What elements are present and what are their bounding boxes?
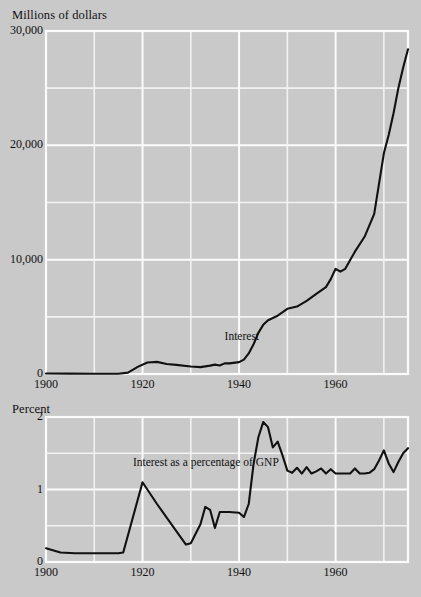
figure-container: Millions of dollars 010,00020,00030,000 … [0,0,421,597]
y-axis-tick-label: 30,000 [10,23,43,38]
x-axis-tick-label: 1920 [118,377,168,392]
chart-panel-interest-percent: Percent 012 1900192019401960 Interest as… [0,397,421,597]
bottom-chart-axis-title: Percent [12,402,50,417]
x-axis-tick-label: 1960 [311,377,361,392]
top-chart-data-line [46,49,408,373]
y-axis-tick-label: 10,000 [10,252,43,267]
x-axis-tick-label: 1940 [214,565,264,580]
y-axis-tick-label: 20,000 [10,137,43,152]
top-chart-axis-title: Millions of dollars [12,8,107,23]
chart-panel-interest-dollars: Millions of dollars 010,00020,00030,000 … [0,0,421,397]
bottom-chart-data-line [46,422,408,553]
x-axis-tick-label: 1900 [21,377,71,392]
y-axis-tick-label: 2 [37,409,43,424]
chart-annotation-label: Interest as a percentage of GNP [133,456,279,468]
top-chart-svg [0,0,421,397]
chart-annotation-label: Interest [225,330,259,342]
x-axis-tick-label: 1960 [311,565,361,580]
x-axis-tick-label: 1940 [214,377,264,392]
top-chart-gridlines [46,31,408,374]
bottom-chart-gridlines [46,417,408,562]
x-axis-tick-label: 1900 [21,565,71,580]
x-axis-tick-label: 1920 [118,565,168,580]
y-axis-tick-label: 1 [37,482,43,497]
